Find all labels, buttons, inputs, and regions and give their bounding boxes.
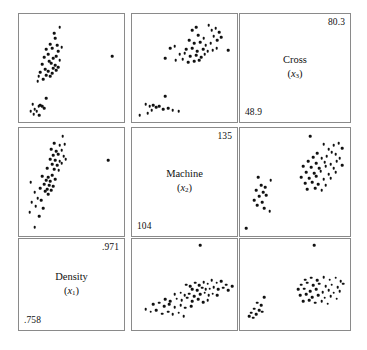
variable-symbol: (x3) [240, 67, 350, 81]
data-point [178, 53, 181, 56]
data-point [332, 167, 335, 170]
data-point [319, 170, 322, 173]
data-point [321, 291, 324, 294]
data-point [325, 155, 328, 158]
data-point [306, 282, 309, 285]
data-point [262, 191, 265, 194]
data-point [185, 48, 188, 51]
data-point [51, 163, 54, 166]
data-point [29, 181, 32, 184]
data-point [299, 294, 302, 297]
data-point [330, 151, 333, 154]
data-point [330, 283, 333, 286]
data-point [329, 177, 332, 180]
data-point [329, 295, 332, 298]
data-point [47, 70, 50, 73]
data-point [45, 97, 48, 100]
data-point [167, 107, 170, 110]
data-point [144, 103, 147, 106]
data-point [300, 176, 303, 179]
data-point [309, 135, 312, 138]
data-point [306, 188, 309, 191]
data-point [51, 174, 54, 177]
data-point [150, 109, 153, 112]
data-point [297, 288, 300, 291]
data-point [329, 163, 332, 166]
data-point [300, 283, 303, 286]
data-point [341, 147, 344, 150]
data-point [42, 207, 45, 210]
data-point [326, 302, 329, 305]
data-point [263, 296, 266, 299]
data-point [39, 71, 42, 74]
data-point [311, 296, 314, 299]
data-point [180, 299, 183, 302]
data-point [54, 159, 57, 162]
data-point [59, 144, 62, 147]
data-point [268, 210, 271, 213]
data-point [206, 50, 209, 53]
variable-label-x1: Density(x1) [19, 270, 124, 299]
data-point [324, 184, 327, 187]
splom-diagonal-panel-x2: 135104Machine(x2) [131, 127, 238, 237]
data-point [45, 74, 48, 77]
data-point [179, 292, 182, 295]
plot-area [240, 128, 350, 236]
data-point [43, 56, 46, 59]
data-point [111, 55, 114, 58]
data-point [197, 34, 200, 37]
data-point [196, 289, 199, 292]
data-point [43, 107, 46, 110]
data-point [335, 153, 338, 156]
data-point [203, 37, 206, 40]
data-point [168, 303, 171, 306]
data-point [36, 197, 39, 200]
data-point [317, 183, 320, 186]
data-point [57, 153, 60, 156]
data-point [305, 171, 308, 174]
data-point [204, 292, 207, 295]
data-point [61, 162, 64, 165]
data-point [44, 190, 47, 193]
data-point [256, 204, 259, 207]
data-point [218, 31, 221, 34]
data-point [220, 36, 223, 39]
data-point [302, 165, 305, 168]
data-point [308, 177, 311, 180]
axis-max-label: 135 [217, 132, 232, 142]
data-point [61, 135, 64, 138]
data-point [323, 161, 326, 164]
data-point [162, 108, 165, 111]
data-point [202, 301, 205, 304]
data-point [146, 112, 149, 115]
data-point [61, 46, 64, 49]
data-point [255, 313, 258, 316]
data-point [317, 294, 320, 297]
data-point [336, 160, 339, 163]
data-point [107, 159, 110, 162]
data-point [250, 311, 253, 314]
splom-diagonal-panel-x1: .971.758Density(x1) [18, 238, 125, 331]
data-point [212, 286, 215, 289]
data-point [46, 167, 49, 170]
data-point [163, 305, 166, 308]
data-point [45, 48, 48, 51]
axis-max-label: 80.3 [328, 18, 345, 28]
data-point [315, 175, 318, 178]
data-point [53, 142, 56, 145]
data-point [215, 47, 218, 50]
variable-name: Density [19, 270, 124, 284]
data-point [322, 143, 325, 146]
data-point [338, 142, 341, 145]
data-point [47, 193, 50, 196]
splom-scatter-panel-x1-vs-x3 [18, 13, 125, 123]
data-point [335, 171, 338, 174]
data-point [202, 48, 205, 51]
data-point [210, 279, 213, 282]
data-point [216, 294, 219, 297]
data-point [35, 110, 38, 113]
data-point [36, 80, 39, 83]
data-point [149, 311, 152, 314]
data-point [248, 315, 251, 318]
data-point [255, 189, 258, 192]
